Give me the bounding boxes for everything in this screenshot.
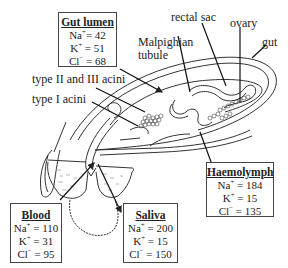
gut-lumen-cl: Cl− = 68 bbox=[59, 55, 116, 68]
saliva-cl: Cl− = 150 bbox=[124, 248, 177, 261]
hair-follicle bbox=[40, 150, 60, 197]
label-ovary: ovary bbox=[230, 17, 257, 30]
label-gut: gut bbox=[262, 36, 277, 49]
haemolymph-na: Na+ = 184 bbox=[207, 179, 273, 192]
saliva-na: Na+ = 200 bbox=[124, 222, 177, 235]
haemolymph-title: Haemolymph bbox=[207, 166, 273, 179]
saliva-title: Saliva bbox=[124, 209, 177, 222]
label-malpighian-line2: tubule bbox=[138, 49, 168, 62]
label-rectal-sac: rectal sac bbox=[171, 11, 216, 24]
label-type-ii-iii-acini: type II and III acini bbox=[32, 73, 125, 86]
label-type-i-acini: type I acini bbox=[32, 93, 86, 106]
blood-na: Na+ = 110 bbox=[11, 222, 61, 235]
gut-lumen-title: Gut lumen bbox=[59, 16, 116, 29]
haemolymph-k: K+ = 15 bbox=[207, 192, 273, 205]
haemolymph-cl: Cl− = 135 bbox=[207, 205, 273, 218]
haemolymph-box: Haemolymph Na+ = 184 K+ = 15 Cl− = 135 bbox=[206, 162, 274, 217]
ovary-beads bbox=[208, 95, 250, 120]
skin-surface bbox=[48, 160, 86, 162]
saliva-k: K+ = 15 bbox=[124, 235, 177, 248]
gut-lumen-box: Gut lumen Na+= 42 K+ = 51 Cl− = 68 bbox=[58, 12, 117, 67]
blood-cl: Cl− = 95 bbox=[11, 248, 61, 261]
leader-rectal-sac bbox=[202, 23, 226, 86]
gut-lumen-na: Na+= 42 bbox=[59, 29, 116, 42]
arrow-blood bbox=[60, 163, 94, 200]
feeding-lesion bbox=[70, 200, 119, 235]
acini-cluster bbox=[139, 114, 163, 128]
blood-box: Blood Na+ = 110 K+ = 31 Cl− = 95 bbox=[10, 203, 62, 263]
blood-k: K+ = 31 bbox=[11, 235, 61, 248]
leader-malpighian-left bbox=[120, 69, 162, 92]
arrow-saliva bbox=[98, 164, 121, 212]
blood-title: Blood bbox=[11, 209, 61, 222]
saliva-box: Saliva Na+ = 200 K+ = 15 Cl− = 150 bbox=[123, 203, 178, 263]
gut-lumen-k: K+ = 51 bbox=[59, 42, 116, 55]
